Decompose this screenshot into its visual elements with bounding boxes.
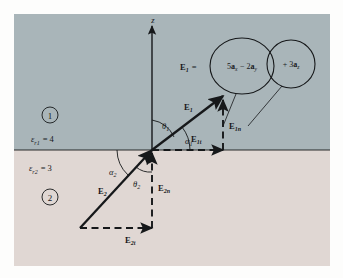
z-axis-label: z bbox=[150, 15, 155, 25]
eps1-value: = 4 bbox=[43, 134, 55, 144]
equation-tangential-group: 5ax−2ay bbox=[227, 62, 258, 72]
eps2-value: = 3 bbox=[41, 163, 52, 173]
diagram-canvas: z bbox=[14, 14, 330, 266]
eps1-subscript: r1 bbox=[34, 140, 39, 146]
region-1-marker-label: 1 bbox=[48, 111, 53, 121]
eps2-subscript: r2 bbox=[32, 169, 37, 175]
region-1-fill bbox=[14, 14, 330, 150]
figure-page: z bbox=[0, 0, 343, 278]
diagram-svg: z bbox=[14, 14, 330, 266]
region-2-marker-label: 2 bbox=[48, 193, 53, 203]
